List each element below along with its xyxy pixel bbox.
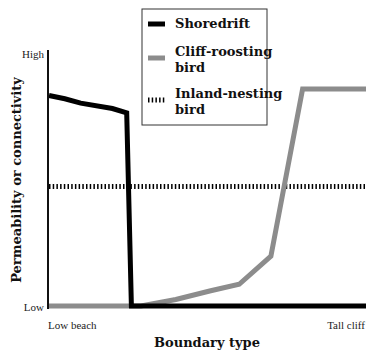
legend-label-inland-nesting-line2: bird	[175, 102, 205, 117]
y-tick-low: Low	[24, 301, 44, 313]
chart: High Low Low beach Tall cliff Boundary t…	[0, 0, 371, 355]
legend: Shoredrift Cliff-roosting bird Inland-ne…	[142, 9, 282, 125]
y-axis-title: Permeability or connectivity	[9, 77, 24, 283]
legend-label-cliff-roosting-line2: bird	[175, 60, 205, 75]
x-tick-tall-cliff: Tall cliff	[327, 319, 365, 331]
legend-label-cliff-roosting-line1: Cliff-roosting	[175, 44, 272, 59]
series-line-shoredrift	[49, 96, 366, 307]
x-tick-low-beach: Low beach	[48, 319, 97, 331]
y-tick-high: High	[22, 48, 45, 60]
legend-label-shoredrift: Shoredrift	[175, 16, 250, 31]
legend-label-inland-nesting-line1: Inland-nesting	[175, 86, 282, 101]
x-axis-title: Boundary type	[154, 335, 260, 350]
